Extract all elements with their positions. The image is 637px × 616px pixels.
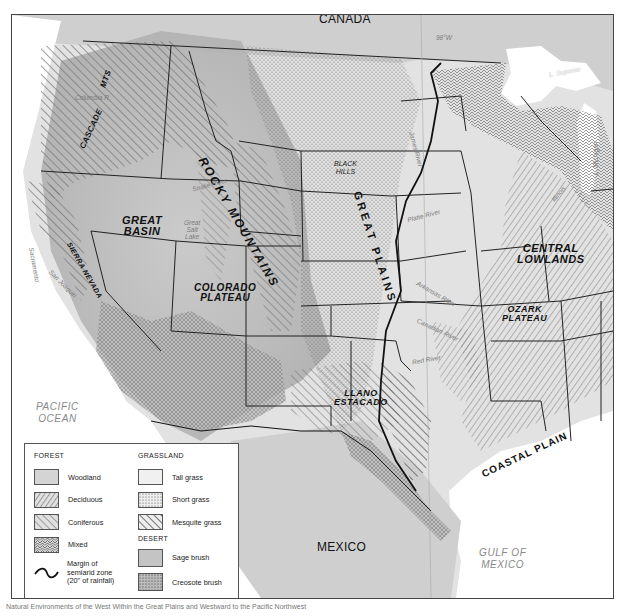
legend-item-woodland: Woodland: [34, 466, 114, 489]
label-llano-estacado: LLANOESTACADO: [334, 389, 388, 407]
label-colorado-plateau: COLORADOPLATEAU: [194, 283, 256, 303]
legend-item-mesquite-grass: Mesquite grass: [138, 511, 222, 534]
label-black-hills: BLACKHILLS: [334, 160, 357, 175]
legend-grassland-column: GRASSLAND Tall grass Short grass Mesquit…: [138, 452, 222, 594]
tall-grass-swatch-icon: [138, 469, 163, 485]
map-frame: CANADA 98°W Columbia R. CASCADE MTS ROCK…: [11, 14, 614, 599]
label-lake-michigan: L. Michigan: [593, 142, 600, 175]
legend-heading-forest: FOREST: [34, 452, 114, 460]
semiarid-margin-line-icon: [34, 566, 59, 580]
label-mexico: MEXICO: [317, 541, 366, 553]
short-grass-swatch-icon: [138, 492, 163, 508]
coniferous-swatch-icon: [34, 514, 59, 530]
figure-caption: Natural Environments of the West Within …: [6, 603, 306, 610]
label-canada: CANADA: [319, 14, 371, 25]
legend-heading-grassland: GRASSLAND: [138, 452, 222, 460]
label-great-basin: GREATBASIN: [122, 215, 162, 237]
legend-forest-column: FOREST Woodland Deciduous Coniferous Mix…: [34, 452, 114, 590]
label-gulf-of-mexico: GULF OFMEXICO: [479, 547, 526, 570]
legend-item-deciduous: Deciduous: [34, 489, 114, 512]
label-pacific-ocean: PACIFICOCEAN: [36, 401, 79, 424]
sage-brush-swatch-icon: [138, 549, 163, 567]
legend-item-tall-grass: Tall grass: [138, 466, 222, 489]
deciduous-swatch-icon: [34, 492, 59, 508]
legend-item-creosote-brush: Creosote brush: [138, 571, 222, 594]
mesquite-grass-swatch-icon: [138, 514, 163, 530]
legend-item-mixed: Mixed: [34, 534, 114, 557]
label-columbia-river: Columbia R.: [75, 95, 111, 102]
map-legend: FOREST Woodland Deciduous Coniferous Mix…: [24, 443, 239, 599]
creosote-brush-swatch-icon: [138, 573, 163, 591]
label-central-lowlands: CENTRALLOWLANDS: [517, 243, 585, 265]
legend-heading-desert: DESERT: [138, 535, 222, 543]
woodland-swatch-icon: [34, 469, 59, 485]
label-ozark-plateau: OZARKPLATEAU: [502, 305, 547, 323]
legend-item-short-grass: Short grass: [138, 489, 222, 512]
legend-item-semiarid-margin: Margin ofsemiarid zone(20" of rainfall): [34, 556, 114, 590]
legend-item-sage-brush: Sage brush: [138, 547, 222, 570]
label-great-salt-lake: GreatSaltLake: [184, 219, 200, 240]
legend-item-coniferous: Coniferous: [34, 511, 114, 534]
mixed-swatch-icon: [34, 537, 59, 553]
label-98w-meridian: 98°W: [436, 35, 452, 42]
